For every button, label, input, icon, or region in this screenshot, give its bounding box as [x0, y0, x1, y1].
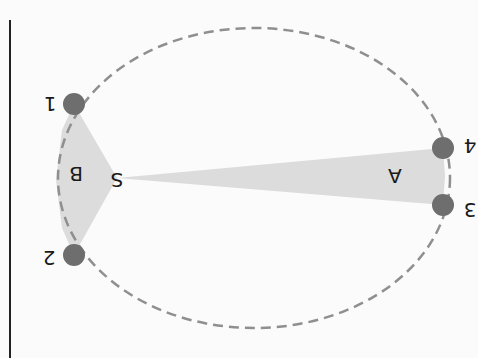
point-label-4: 4 [464, 134, 477, 158]
planet-point-2 [63, 244, 85, 266]
sector-b [56, 104, 117, 255]
sector-label-a: A [388, 164, 402, 188]
sun-label: S [111, 168, 124, 192]
point-label-1: 1 [44, 92, 57, 116]
planet-point-3 [432, 194, 454, 216]
point-label-3: 3 [464, 198, 477, 222]
planet-point-4 [432, 137, 454, 159]
planet-point-1 [63, 93, 85, 115]
point-label-2: 2 [43, 246, 56, 270]
diagram-canvas: 1 2 3 4 S A B [0, 0, 478, 358]
sector-label-b: B [69, 162, 83, 186]
kepler-diagram: 1 2 3 4 S A B [0, 0, 478, 358]
